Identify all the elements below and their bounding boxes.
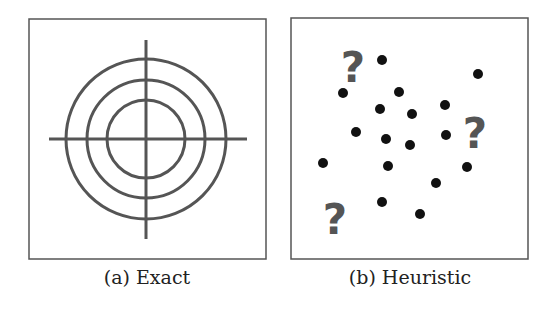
sample-dot (431, 178, 441, 188)
panel-exact (29, 19, 266, 259)
sample-dot (440, 100, 450, 110)
sample-dot (462, 162, 472, 172)
caption-heuristic: (b) Heuristic (349, 266, 471, 288)
sample-dot (441, 130, 451, 140)
panel-heuristic: ??? (291, 18, 528, 259)
sample-dot (473, 69, 483, 79)
sample-dot (394, 87, 404, 97)
sample-dot (351, 127, 361, 137)
sample-dot (375, 104, 385, 114)
sample-dot (318, 158, 328, 168)
caption-exact: (a) Exact (104, 266, 190, 288)
sample-dot (415, 209, 425, 219)
sample-dot (407, 109, 417, 119)
sample-dot (377, 55, 387, 65)
sample-dot (383, 161, 393, 171)
sample-dot (381, 134, 391, 144)
sample-dot (405, 140, 415, 150)
question-mark-icon: ? (463, 109, 487, 158)
sample-dot (377, 197, 387, 207)
question-mark-icon: ? (323, 195, 347, 244)
question-mark-icon: ? (341, 43, 365, 92)
